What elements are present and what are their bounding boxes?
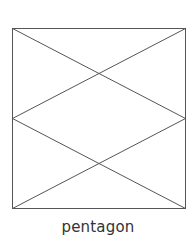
square-outline — [13, 29, 186, 209]
pentagon-diagram — [0, 0, 196, 246]
diagram-label: pentagon — [0, 218, 196, 236]
